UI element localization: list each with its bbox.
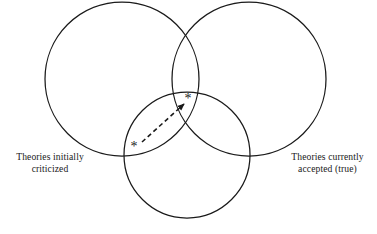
dashed-arrow-connector (142, 104, 184, 142)
venn-diagram-figure: * * Theories initially criticized Theori… (0, 0, 377, 234)
set-label-right-line1: Theories currently (278, 151, 377, 163)
set-circle-bottom (124, 92, 250, 218)
set-circle-right (172, 2, 326, 156)
set-label-right: Theories currently accepted (true) (278, 151, 377, 176)
set-label-left-line1: Theories initially (0, 151, 100, 163)
asterisk-marker-lower-left: * (131, 139, 138, 154)
set-label-left-line2: criticized (0, 163, 100, 175)
venn-diagram-canvas: * * (0, 0, 377, 234)
asterisk-marker-upper-right: * (185, 91, 192, 106)
set-label-right-line2: accepted (true) (278, 163, 377, 175)
set-circle-left (45, 2, 199, 156)
set-label-left: Theories initially criticized (0, 151, 100, 176)
